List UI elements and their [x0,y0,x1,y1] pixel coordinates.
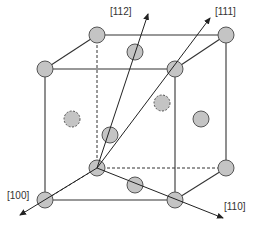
atom-corner [167,61,183,77]
label-111: [111] [215,6,236,17]
atom-left-face [64,111,80,127]
atom-right-face [193,111,209,127]
arrow-110 [97,168,223,218]
atom-corner [37,61,53,77]
atom-corner [89,27,105,43]
atom-corner [167,192,183,208]
hidden-atoms [64,95,170,127]
direction-arrows [20,14,223,218]
label-112: [112] [110,6,132,17]
atom-back-face [154,95,170,111]
arrow-111 [97,18,210,168]
label-100: [100] [7,190,29,201]
label-110: [110] [224,201,246,212]
fcc-diagram: [112] [111] [100] [110] [0,0,254,229]
atom-corner [218,27,234,43]
arrow-100 [20,168,97,215]
atom-corner [218,160,234,176]
